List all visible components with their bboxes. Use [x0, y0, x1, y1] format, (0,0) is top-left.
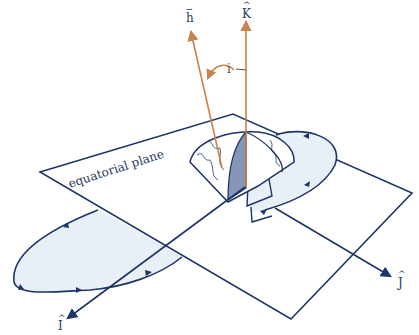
- inclination-label: i: [227, 62, 231, 76]
- i-axis-hat: ^: [58, 313, 66, 323]
- orbit-diagram: equatorial plane h ⇀ K ^ i I ^ J ^: [0, 0, 419, 335]
- inclination-leader: [236, 69, 246, 70]
- h-vector-accent: ⇀: [186, 5, 193, 14]
- k-axis-hat: ^: [243, 0, 251, 10]
- j-axis-hat: ^: [398, 269, 406, 279]
